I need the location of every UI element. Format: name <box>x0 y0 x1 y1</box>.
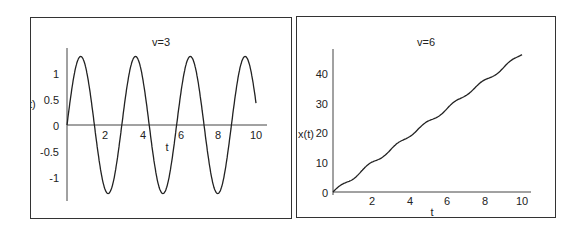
x-tick-labels: 2 4 6 8 10 <box>369 195 528 207</box>
y-tick-labels: 0 10 20 30 40 <box>316 68 328 199</box>
svg-text:-1: -1 <box>49 172 59 184</box>
chart-v6-svg: v=6 x(t) 0 10 20 30 40 2 4 6 8 10 t <box>297 17 557 219</box>
chart-title: v=3 <box>152 36 170 48</box>
svg-text:4: 4 <box>140 129 146 141</box>
svg-text:20: 20 <box>316 127 328 139</box>
x-axis-label: t <box>430 206 433 218</box>
svg-text:40: 40 <box>316 68 328 80</box>
svg-text:2: 2 <box>102 129 108 141</box>
y-axis-label: t) <box>31 98 36 110</box>
x-tick-labels: 2 4 6 8 10 <box>102 129 262 141</box>
svg-text:8: 8 <box>482 195 488 207</box>
svg-text:10: 10 <box>250 129 262 141</box>
svg-text:8: 8 <box>215 129 221 141</box>
data-line-v6 <box>333 55 522 192</box>
svg-text:1: 1 <box>53 68 59 80</box>
svg-text:10: 10 <box>316 157 328 169</box>
svg-text:6: 6 <box>444 195 450 207</box>
chart-panel-v3: v=3 t) 1 0.5 0 -0.5 -1 2 4 6 8 10 t <box>30 17 292 219</box>
svg-text:2: 2 <box>369 195 375 207</box>
y-tick-labels: 1 0.5 0 -0.5 -1 <box>40 68 59 184</box>
svg-text:10: 10 <box>516 195 528 207</box>
chart-v3-svg: v=3 t) 1 0.5 0 -0.5 -1 2 4 6 8 10 t <box>31 18 293 220</box>
y-axis-label: x(t) <box>298 128 314 140</box>
chart-title: v=6 <box>417 36 435 48</box>
svg-text:0: 0 <box>322 187 328 199</box>
x-axis-label: t <box>165 141 168 153</box>
svg-text:0: 0 <box>53 120 59 132</box>
svg-text:6: 6 <box>178 129 184 141</box>
svg-text:-0.5: -0.5 <box>40 146 59 158</box>
chart-panel-v6: v=6 x(t) 0 10 20 30 40 2 4 6 8 10 t <box>296 16 556 218</box>
svg-text:30: 30 <box>316 98 328 110</box>
svg-text:0.5: 0.5 <box>44 94 59 106</box>
svg-text:4: 4 <box>407 195 413 207</box>
